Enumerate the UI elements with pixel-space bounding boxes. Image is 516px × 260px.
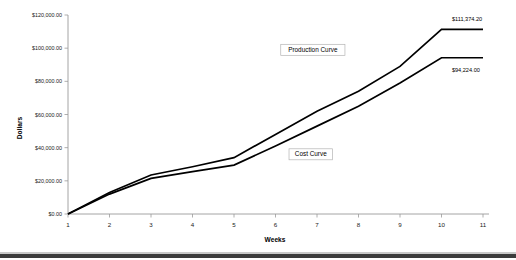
x-tick-label: 4 — [191, 221, 195, 228]
series-label: Cost Curve — [295, 150, 327, 157]
line-chart: $0.00$20,000.00$40,000.00$60,000.00$80,0… — [0, 0, 516, 260]
y-tick-label: $100,000.00 — [32, 45, 62, 51]
y-tick-label: $120,000.00 — [32, 12, 62, 18]
data-value-label: $94,224.00 — [452, 67, 480, 73]
x-tick-label: 2 — [108, 221, 112, 228]
y-tick-label: $0.00 — [49, 211, 63, 217]
x-tick-label: 1 — [66, 221, 70, 228]
chart-container: $0.00$20,000.00$40,000.00$60,000.00$80,0… — [0, 0, 516, 260]
y-axis-title: Dollars — [16, 116, 23, 139]
y-tick-label: $60,000.00 — [35, 112, 62, 118]
series-label: Production Curve — [288, 46, 338, 53]
x-tick-label: 7 — [315, 221, 319, 228]
x-tick-label: 6 — [274, 221, 278, 228]
y-tick-label: $40,000.00 — [35, 145, 62, 151]
y-tick-label: $20,000.00 — [35, 178, 62, 184]
page-edge-shadow — [0, 254, 516, 258]
x-tick-label: 9 — [398, 221, 402, 228]
x-tick-label: 11 — [480, 221, 487, 228]
x-axis-title: Weeks — [265, 236, 286, 243]
data-value-label: $111,374.20 — [452, 16, 482, 22]
y-tick-label: $80,000.00 — [35, 78, 62, 84]
x-tick-label: 10 — [438, 221, 445, 228]
x-tick-label: 5 — [232, 221, 236, 228]
x-tick-label: 3 — [149, 221, 153, 228]
x-tick-label: 8 — [357, 221, 361, 228]
page-edge-highlight — [0, 252, 516, 254]
